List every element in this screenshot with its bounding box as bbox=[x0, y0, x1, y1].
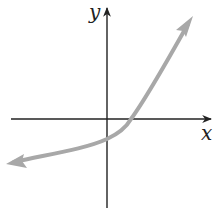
curve-arrow-right-icon bbox=[176, 16, 193, 37]
exponential-curve bbox=[14, 24, 188, 162]
x-axis-label: x bbox=[201, 123, 212, 143]
graph-canvas bbox=[0, 0, 216, 208]
y-axis-label: y bbox=[89, 2, 100, 22]
